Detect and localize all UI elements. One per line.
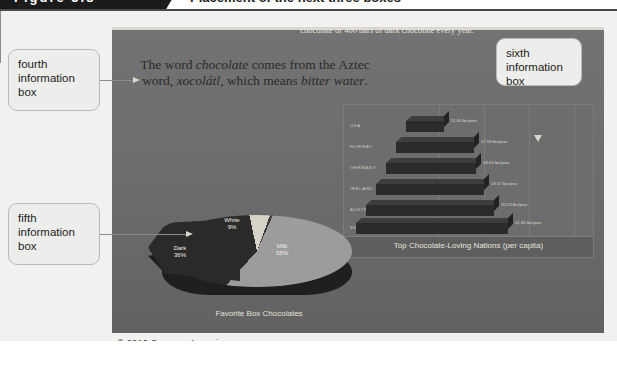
bar-category-label: NORWAY bbox=[350, 144, 373, 149]
quote-line2-post: , bbox=[220, 73, 223, 88]
pie-label-text: Dark bbox=[174, 245, 187, 251]
slide-partial-top-text: chocolate or 400 bars of dark chocolate … bbox=[282, 27, 492, 35]
quote-line2-italic: xocolátl bbox=[177, 73, 221, 88]
bar-segment bbox=[366, 205, 494, 216]
callout-fifth-leader-line bbox=[100, 234, 188, 235]
quote-line3-post: . bbox=[364, 73, 367, 88]
callout-fourth-leader-line bbox=[100, 80, 136, 81]
pie-label-value: 55% bbox=[276, 250, 288, 256]
figure-body-panel: chocolate or 400 bars of dark chocolate … bbox=[0, 11, 617, 341]
bar-category-label: USA bbox=[350, 123, 361, 128]
pie-slice-label-dark: Dark 36% bbox=[162, 245, 198, 259]
callout-line-1: fifth bbox=[18, 211, 90, 225]
quote-line1-pre: The word bbox=[140, 57, 195, 72]
pie-slice-label-white: White 9% bbox=[214, 217, 250, 231]
pie-chart: Milk 55% Dark 36% White 9% Favorite Box … bbox=[144, 205, 374, 325]
quote-line1-italic: chocolate bbox=[196, 57, 248, 72]
bar-value-label: 20.13 lbs/year bbox=[501, 202, 527, 207]
callout-line-2: information bbox=[506, 60, 572, 74]
bar-segment bbox=[376, 184, 484, 195]
bar-value-label: 17.59 lbs/year bbox=[481, 139, 507, 144]
callout-sixth-leader-line bbox=[0, 11, 1, 63]
pie-slice-label-milk: Milk 55% bbox=[262, 243, 302, 257]
bar-chart-title-bar: Top Chocolate-Loving Nations (per capita… bbox=[344, 236, 593, 257]
bar-value-label: 18.04 lbs/year bbox=[483, 160, 509, 165]
figure-caption-title: Placement of the next three boxes bbox=[190, 0, 401, 5]
quote-line3-italic: bitter water bbox=[301, 73, 364, 88]
callout-line-1: sixth bbox=[506, 46, 572, 60]
callout-line-2: information bbox=[18, 225, 90, 239]
callout-fourth-arrow-icon bbox=[133, 77, 140, 83]
bar-segment bbox=[396, 142, 474, 153]
callout-fifth-arrow-icon bbox=[186, 231, 193, 237]
callout-line-3: box bbox=[506, 74, 572, 88]
pie-label-text: White bbox=[224, 217, 239, 223]
quote-line3-pre: which means bbox=[227, 73, 301, 88]
callout-line-2: information bbox=[18, 71, 90, 85]
page-bottom-margin bbox=[0, 341, 617, 369]
figure-number-label: Figure 5.8 bbox=[14, 0, 95, 5]
callout-fifth-information-box[interactable]: fifth information box bbox=[8, 203, 100, 265]
bar-chart-plot-area: USA 11.00 lbs/year NORWAY 17.59 lbs/year… bbox=[344, 105, 593, 236]
bar-value-label: 11.00 lbs/year bbox=[451, 118, 477, 123]
bar-segment bbox=[386, 163, 476, 174]
slide-quote-text: The word chocolate comes from the Aztec … bbox=[140, 57, 370, 89]
bar-value-label: 19.47 lbs/year bbox=[491, 181, 517, 186]
figure-header: Figure 5.8 Placement of the next three b… bbox=[0, 0, 617, 11]
callout-sixth-arrow-icon bbox=[534, 135, 542, 142]
pie-label-value: 36% bbox=[174, 252, 186, 258]
bar-segment bbox=[406, 121, 444, 132]
bar-category-label: GERMANY bbox=[350, 165, 376, 170]
callout-fourth-information-box[interactable]: fourth information box bbox=[8, 49, 100, 111]
callout-sixth-information-box[interactable]: sixth information box bbox=[496, 38, 582, 86]
bar-chart-title: Top Chocolate-Loving Nations (per capita… bbox=[344, 241, 593, 250]
bar-value-label: 22.36 lbs/year bbox=[515, 220, 541, 225]
callout-line-1: fourth bbox=[18, 57, 90, 71]
pie-label-text: Milk bbox=[277, 243, 288, 249]
bar-category-label: IRELAND bbox=[350, 186, 373, 191]
pie-label-value: 9% bbox=[228, 224, 237, 230]
bar-segment bbox=[356, 223, 508, 234]
pie-chart-title: Favorite Box Chocolates bbox=[144, 309, 374, 318]
callout-line-3: box bbox=[18, 239, 90, 253]
quote-line1-post: comes bbox=[248, 57, 286, 72]
bar-chart: USA 11.00 lbs/year NORWAY 17.59 lbs/year… bbox=[343, 104, 594, 258]
callout-line-3: box bbox=[18, 85, 90, 99]
